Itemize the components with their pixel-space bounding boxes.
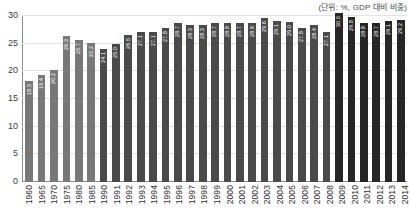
bar-value-label: 25.2 <box>89 46 94 57</box>
bar[interactable]: 29.0 <box>286 22 294 182</box>
bar[interactable]: 28.8 <box>248 23 256 182</box>
bar-value-label: 27.1 <box>151 35 156 46</box>
bar-value-label: 26.5 <box>126 38 131 49</box>
x-tick-slot: 2014 <box>398 184 411 221</box>
y-tick-label: 10 <box>8 121 18 131</box>
bar-slot: 28.4 <box>308 16 320 182</box>
bar[interactable]: 28.3 <box>199 25 207 182</box>
bar-value-label: 29.2 <box>398 23 403 34</box>
x-tick-label: 1960 <box>24 185 34 204</box>
bar[interactable]: 28.8 <box>360 23 368 182</box>
bar[interactable]: 28.7 <box>174 23 182 182</box>
bar-slot: 27.1 <box>320 16 332 182</box>
x-tick-label: 1998 <box>199 185 209 204</box>
bar[interactable]: 29.1 <box>273 21 281 182</box>
x-tick-label: 1965 <box>37 185 47 204</box>
bar-value-label: 28.7 <box>175 26 180 37</box>
x-tick-slot: 2008 <box>323 184 336 221</box>
bar[interactable]: 25.7 <box>75 40 83 182</box>
x-tick-slot: 2011 <box>361 184 374 221</box>
bar-value-label: 28.7 <box>237 26 242 37</box>
bar[interactable]: 19.4 <box>38 75 46 182</box>
bar-slot: 25.2 <box>85 16 97 182</box>
bar[interactable]: 25.2 <box>87 43 95 182</box>
x-tick-label: 2014 <box>400 185 410 204</box>
x-tick-label: 1975 <box>62 185 72 204</box>
bar-slot: 27.8 <box>296 16 308 182</box>
x-tick-label: 2002 <box>250 185 260 204</box>
x-tick-slot: 1970 <box>48 184 61 221</box>
x-tick-label: 1992 <box>124 185 134 204</box>
bar[interactable]: 26.5 <box>124 35 132 182</box>
bar[interactable]: 18.3 <box>25 81 33 182</box>
x-tick-slot: 2010 <box>348 184 361 221</box>
bar-value-label: 25.7 <box>76 43 81 54</box>
bar-slot: 29.0 <box>283 16 295 182</box>
bar[interactable]: 29.6 <box>261 18 269 182</box>
bar-chart: (단위: %, GDP 대비 비중) 051015202530 18.319.4… <box>0 0 411 221</box>
bar-value-label: 27.8 <box>299 31 304 42</box>
bar[interactable]: 27.1 <box>137 32 145 182</box>
x-tick-slot: 1980 <box>73 184 86 221</box>
bar-slot: 25.0 <box>110 16 122 182</box>
bar[interactable]: 29.8 <box>348 17 356 182</box>
bar[interactable]: 28.3 <box>186 25 194 182</box>
bar[interactable]: 27.1 <box>149 32 157 182</box>
y-tick-label: 20 <box>8 65 18 75</box>
bar-value-label: 28.8 <box>225 26 230 37</box>
bar[interactable]: 28.7 <box>211 23 219 182</box>
bar[interactable]: 29.2 <box>397 20 405 182</box>
bar[interactable]: 27.8 <box>298 28 306 182</box>
bar[interactable]: 26.3 <box>63 36 71 182</box>
bar-slot: 20.2 <box>48 16 60 182</box>
x-tick-label: 2013 <box>387 185 397 204</box>
x-tick-label: 2006 <box>300 185 310 204</box>
x-tick-slot: 1995 <box>161 184 174 221</box>
bar-value-label: 28.7 <box>212 26 217 37</box>
x-tick-label: 2003 <box>262 185 272 204</box>
bar[interactable]: 29.1 <box>385 21 393 182</box>
bar[interactable]: 24.1 <box>100 49 108 182</box>
bar-value-label: 29.1 <box>274 24 279 35</box>
x-tick-slot: 1993 <box>136 184 149 221</box>
x-tick-label: 2010 <box>350 185 360 204</box>
bar[interactable]: 20.2 <box>50 70 58 182</box>
unit-annotation: (단위: %, GDP 대비 비중) <box>318 1 407 12</box>
x-tick-label: 1997 <box>187 185 197 204</box>
x-tick-slot: 2003 <box>261 184 274 221</box>
bar-slot: 29.2 <box>395 16 407 182</box>
x-tick-slot: 2002 <box>248 184 261 221</box>
bar-value-label: 28.7 <box>374 26 379 37</box>
bar-value-label: 28.3 <box>188 28 193 39</box>
bar[interactable]: 25.0 <box>112 44 120 182</box>
x-tick-slot: 1996 <box>173 184 186 221</box>
x-tick-label: 1993 <box>137 185 147 204</box>
bar[interactable]: 27.8 <box>162 28 170 182</box>
bar[interactable]: 30.5 <box>335 13 343 182</box>
x-tick-label: 2005 <box>287 185 297 204</box>
bar-slot: 27.8 <box>159 16 171 182</box>
x-tick-slot: 1990 <box>98 184 111 221</box>
bar[interactable]: 27.1 <box>323 32 331 182</box>
bar[interactable]: 28.4 <box>310 25 318 182</box>
x-tick-label: 1995 <box>162 185 172 204</box>
bar-value-label: 28.8 <box>361 26 366 37</box>
bar-slot: 28.3 <box>184 16 196 182</box>
x-tick-label: 1990 <box>99 185 109 204</box>
bar[interactable]: 28.7 <box>236 23 244 182</box>
x-tick-slot: 1999 <box>211 184 224 221</box>
bar-value-label: 29.1 <box>386 24 391 35</box>
bar-slot: 19.4 <box>35 16 47 182</box>
bar-slot: 28.8 <box>246 16 258 182</box>
y-tick-label: 0 <box>13 176 18 186</box>
x-tick-slot: 2006 <box>298 184 311 221</box>
bar-value-label: 29.0 <box>287 25 292 36</box>
bar[interactable]: 28.8 <box>224 23 232 182</box>
x-tick-slot: 1994 <box>148 184 161 221</box>
bar-slot: 24.1 <box>97 16 109 182</box>
x-tick-slot: 2012 <box>373 184 386 221</box>
bar-slot: 29.1 <box>382 16 394 182</box>
bar[interactable]: 28.7 <box>372 23 380 182</box>
x-tick-slot: 1997 <box>186 184 199 221</box>
x-tick-slot: 2013 <box>386 184 399 221</box>
